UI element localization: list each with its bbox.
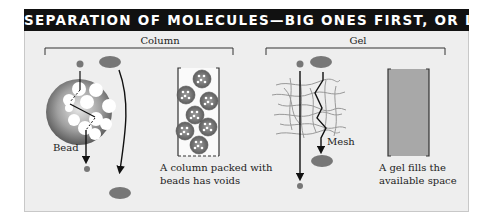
bead-label: Bead xyxy=(53,142,79,154)
packed-column-icon xyxy=(176,68,219,156)
gel-caption-line2: available space xyxy=(379,175,457,187)
big-molecule-icon xyxy=(310,56,332,68)
big-molecule-icon xyxy=(311,155,333,167)
mesh-label: Mesh xyxy=(327,136,355,148)
column-caption-line1: A column packed with xyxy=(160,162,273,174)
gel-column-icon xyxy=(388,69,429,156)
big-molecule-icon xyxy=(109,187,131,199)
mesh-icon xyxy=(272,78,346,138)
big-molecule-icon xyxy=(99,56,121,68)
gel-bracket xyxy=(266,48,445,55)
small-molecule-icon xyxy=(77,61,84,68)
gel-caption-line1: A gel fills the xyxy=(379,162,446,174)
diagram-graphics xyxy=(0,0,492,221)
small-molecule-icon xyxy=(297,183,303,189)
small-molecule-icon xyxy=(297,61,304,68)
big-molecule-path-gel xyxy=(310,56,333,167)
small-molecule-icon xyxy=(84,166,90,172)
bead-icon xyxy=(46,79,116,145)
column-bracket xyxy=(45,48,233,55)
column-caption-line2: beads has voids xyxy=(160,175,240,187)
